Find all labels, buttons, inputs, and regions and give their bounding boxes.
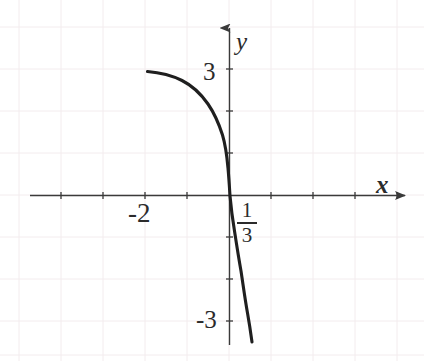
y-tick-label-3: 3 <box>203 59 216 84</box>
x-intercept-fraction-label: 1 3 <box>236 200 258 246</box>
x-tick-label-neg2: -2 <box>128 200 151 227</box>
y-axis-label: y <box>236 29 247 54</box>
graph-figure: y x 3 -3 -2 1 3 <box>0 0 424 361</box>
y-tick-label-neg3: -3 <box>196 307 217 332</box>
fraction-denominator: 3 <box>236 225 258 246</box>
fraction-numerator: 1 <box>236 200 258 221</box>
x-axis-label: x <box>376 172 389 197</box>
